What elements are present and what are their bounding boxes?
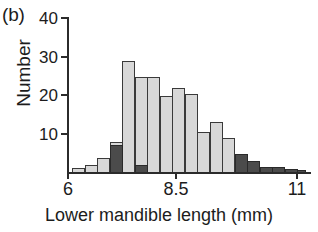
y-axis-title: Number [13,13,35,133]
x-axis-line [67,172,311,174]
y-tick-20 [61,94,68,96]
y-tick-label-40: 40 [24,10,58,27]
x-tick-label-11: 11 [277,180,317,198]
bar-light-3 [97,158,110,173]
bar-light-5 [122,61,135,173]
y-tick-label-30: 30 [24,49,58,66]
y-tick-label-10: 10 [24,126,58,143]
bar-light-7 [147,77,160,173]
x-tick-11 [296,172,298,179]
bar-dark-1 [110,145,123,173]
y-tick-40 [61,17,68,19]
bar-dark-3 [235,154,248,173]
bar-light-12 [210,122,223,173]
bar-light-6 [135,77,148,173]
y-tick-label-20: 20 [24,87,58,104]
bar-light-8 [160,96,173,173]
x-axis-title: Lower mandible length (mm) [0,205,318,226]
bar-light-13 [222,138,235,173]
y-tick-10 [61,133,68,135]
figure-panel-b: (b) Number Lower mandible length (mm) 40… [0,0,318,232]
y-tick-30 [61,56,68,58]
x-tick-label-8point5: 8.5 [156,180,196,198]
x-tick-6 [67,172,69,179]
x-tick-8point5 [175,172,177,179]
bar-light-9 [172,88,185,173]
bar-light-11 [197,132,210,173]
bar-light-10 [185,94,198,173]
x-tick-label-6: 6 [48,180,88,198]
